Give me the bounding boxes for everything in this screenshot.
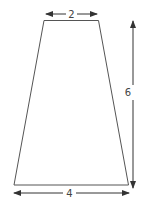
bottom-width-dimension: 4	[14, 188, 129, 199]
top-width-dimension: 2	[46, 9, 97, 20]
height-label: 6	[125, 87, 131, 98]
height-dimension: 6	[125, 21, 133, 188]
trapezoid-shape	[14, 21, 129, 186]
bottom-width-label: 4	[66, 188, 72, 199]
trapezoid-diagram: 2 6 4	[0, 0, 147, 213]
top-width-label: 2	[68, 9, 74, 20]
